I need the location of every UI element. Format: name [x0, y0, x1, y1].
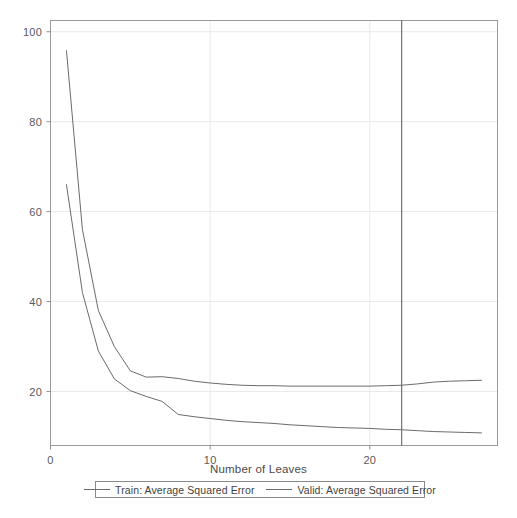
y-tick-label: 20: [8, 386, 42, 398]
y-tick-label: 40: [8, 296, 42, 308]
x-axis-title: Number of Leaves: [0, 463, 517, 475]
y-tick-label: 80: [8, 116, 42, 128]
series-line-valid: [66, 51, 481, 387]
line-swatch-icon: [266, 489, 292, 490]
legend-label-valid: Valid: Average Squared Error: [297, 484, 435, 496]
chart-container: 20406080100 01020 Number of Leaves Train…: [0, 0, 517, 518]
series-lines: [66, 51, 481, 433]
y-tick-label: 60: [8, 206, 42, 218]
line-swatch-icon: [84, 489, 110, 490]
legend-entry-valid: Valid: Average Squared Error: [260, 484, 441, 496]
chart-legend: Train: Average Squared Error Valid: Aver…: [95, 481, 425, 498]
legend-entry-train: Train: Average Squared Error: [78, 484, 260, 496]
plot-canvas: [0, 0, 517, 518]
legend-label-train: Train: Average Squared Error: [115, 484, 254, 496]
tick-marks: [47, 32, 370, 450]
y-tick-label: 100: [8, 26, 42, 38]
series-line-train: [66, 185, 481, 433]
